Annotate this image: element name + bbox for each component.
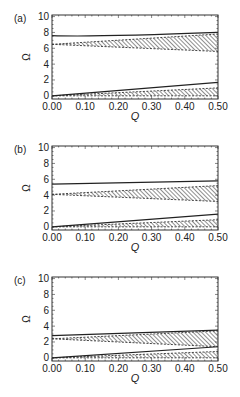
y-tick-label: 6 [43,305,49,316]
solid-line [52,181,218,184]
y-tick-label: 6 [43,43,49,54]
x-tick-label: 0.30 [142,101,162,112]
x-tick-label: 0.30 [142,232,162,243]
x-tick-label: 0.50 [208,363,228,374]
y-tick-label: 8 [43,158,49,169]
y-tick-label: 6 [43,174,49,185]
y-tick-label: 10 [38,11,50,22]
y-axis-label: Ω [21,184,32,192]
y-tick-label: 0 [43,221,49,232]
x-tick-label: 0.20 [109,232,129,243]
y-axis-label: Ω [21,315,32,323]
y-tick-label: 8 [43,27,49,38]
y-tick-label: 0 [43,90,49,101]
plot-frame [52,15,218,99]
panel-c: 02468100.000.100.200.300.400.50(c)QΩ [14,273,228,384]
x-tick-label: 0.10 [75,101,95,112]
y-tick-label: 2 [43,205,49,216]
y-tick-label: 4 [43,59,49,70]
y-tick-label: 4 [43,321,49,332]
x-axis-label: Q [131,110,140,122]
y-tick-label: 2 [43,336,49,347]
x-tick-label: 0.40 [175,101,195,112]
x-tick-label: 0.00 [42,101,62,112]
panel-b: 02468100.000.100.200.300.400.50(b)QΩ [14,142,228,253]
x-tick-label: 0.40 [175,232,195,243]
x-tick-label: 0.00 [42,363,62,374]
x-tick-label: 0.20 [109,363,129,374]
figure: 02468100.000.100.200.300.400.50(a)QΩ0246… [0,0,240,397]
y-tick-label: 10 [38,273,50,284]
y-tick-label: 8 [43,289,49,300]
panel-label: (c) [14,275,26,286]
x-tick-label: 0.50 [208,101,228,112]
x-tick-label: 0.20 [109,101,129,112]
x-tick-label: 0.30 [142,363,162,374]
x-tick-label: 0.00 [42,232,62,243]
y-axis-label: Ω [21,53,32,61]
x-axis-label: Q [131,372,140,384]
hatched-band [52,186,218,202]
x-tick-label: 0.40 [175,363,195,374]
x-tick-label: 0.10 [75,363,95,374]
y-tick-label: 0 [43,352,49,363]
y-tick-label: 10 [38,142,50,153]
panel-label: (b) [14,144,26,155]
x-axis-label: Q [131,241,140,253]
panel-label: (a) [14,13,26,24]
y-tick-label: 4 [43,190,49,201]
panel-a: 02468100.000.100.200.300.400.50(a)QΩ [14,11,228,122]
x-tick-label: 0.10 [75,232,95,243]
y-tick-label: 2 [43,74,49,85]
x-tick-label: 0.50 [208,232,228,243]
